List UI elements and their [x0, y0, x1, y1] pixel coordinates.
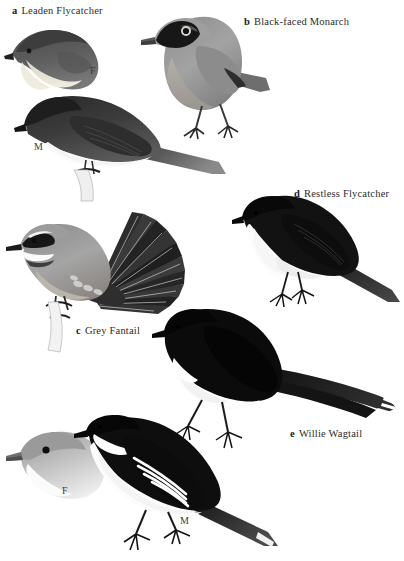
bird-bill: [14, 124, 27, 132]
species-letter-a: a: [12, 5, 17, 16]
species-letter-c: c: [76, 325, 81, 336]
bird-bill: [4, 53, 14, 60]
bird-bill: [6, 244, 22, 251]
bird-bill: [232, 216, 244, 224]
figure-restless-flycatcher: [232, 190, 404, 325]
bird-eye: [98, 425, 102, 429]
species-label-e: eWillie Wagtail: [290, 428, 362, 439]
bird-eye: [42, 446, 49, 453]
species-letter-b: b: [244, 16, 250, 27]
perch-branch: [74, 170, 93, 201]
species-label-c: cGrey Fantail: [76, 325, 140, 336]
bird-eye: [254, 211, 258, 215]
bird-eye: [27, 49, 32, 54]
bird-eye: [32, 239, 36, 243]
bird-bill: [152, 330, 166, 338]
species-name-e: Willie Wagtail: [299, 428, 362, 439]
species-name-d: Restless Flycatcher: [304, 188, 389, 199]
species-label-a: aLeaden Flycatcher: [12, 5, 103, 16]
species-letter-d: d: [294, 188, 300, 199]
sex-label-leaden-female: F: [90, 65, 96, 76]
bird-feet: [270, 290, 314, 307]
perch-branch: [48, 302, 62, 352]
sex-label-restless-male: M: [180, 515, 189, 526]
species-label-b: bBlack-faced Monarch: [244, 16, 349, 27]
sex-label-restless-female: F: [62, 485, 68, 496]
field-guide-plate: aLeaden Flycatcher bBlack-faced Monarch …: [0, 0, 404, 561]
sex-label-leaden-male: M: [34, 141, 43, 152]
bird-feet: [124, 530, 190, 550]
species-name-b: Black-faced Monarch: [254, 16, 349, 27]
species-label-d: dRestless Flycatcher: [294, 188, 389, 199]
figure-black-faced-monarch: [140, 12, 275, 152]
figure-restless-flycatcher-male: [72, 414, 312, 561]
species-name-c: Grey Fantail: [85, 325, 140, 336]
bird-feet: [184, 126, 238, 139]
bird-eye: [183, 28, 189, 34]
bird-bill: [74, 430, 88, 438]
figure-leaden-flycatcher-female: [4, 22, 114, 94]
species-letter-e: e: [290, 428, 295, 439]
bird-eye: [176, 325, 180, 329]
species-name-a: Leaden Flycatcher: [21, 5, 102, 16]
